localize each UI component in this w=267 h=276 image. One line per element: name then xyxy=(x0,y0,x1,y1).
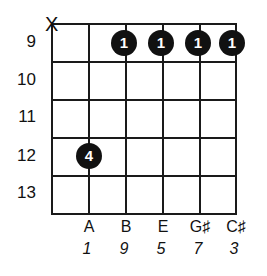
note-label: B xyxy=(111,218,141,236)
finger-dot: 1 xyxy=(148,30,174,56)
fret-label-11: 11 xyxy=(0,107,36,127)
fret-label-13: 13 xyxy=(0,183,36,203)
interval-label: 7 xyxy=(183,240,213,258)
note-label: C♯ xyxy=(221,218,251,236)
fret-line xyxy=(51,61,237,63)
note-label: E xyxy=(148,218,178,236)
interval-label: 1 xyxy=(72,240,102,258)
fret-line xyxy=(51,137,237,139)
finger-dot: 1 xyxy=(219,30,245,56)
muted-string-x-icon: X xyxy=(45,14,58,34)
fret-label-9: 9 xyxy=(0,32,36,52)
fret-line xyxy=(51,99,237,101)
fret-line xyxy=(51,23,237,25)
finger-dot: 1 xyxy=(111,30,137,56)
string-line xyxy=(88,23,90,215)
note-label: G♯ xyxy=(185,218,215,236)
interval-label: 3 xyxy=(219,240,249,258)
finger-dot: 1 xyxy=(185,30,211,56)
fret-label-10: 10 xyxy=(0,70,36,90)
string-line xyxy=(51,23,53,215)
fret-label-12: 12 xyxy=(0,146,36,166)
interval-label: 9 xyxy=(109,240,139,258)
fret-line xyxy=(51,213,237,215)
note-label: A xyxy=(74,218,104,236)
finger-dot: 4 xyxy=(76,143,102,169)
interval-label: 5 xyxy=(146,240,176,258)
fret-line xyxy=(51,175,237,177)
